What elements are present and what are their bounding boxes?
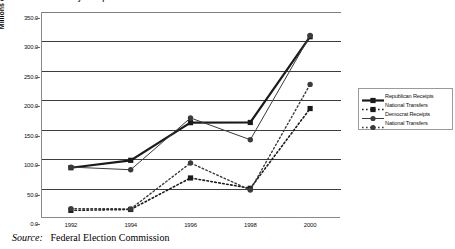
data-point <box>188 160 193 165</box>
legend-label: Democrat Receipts <box>385 111 430 117</box>
legend-label: National Transfers <box>385 120 428 126</box>
data-point <box>307 33 312 38</box>
series-line <box>71 84 310 208</box>
legend-item: Democrat Receipts <box>361 109 450 118</box>
data-point <box>248 137 253 142</box>
data-point <box>68 164 73 169</box>
legend-square-icon <box>361 91 385 100</box>
data-point <box>188 120 193 125</box>
y-tick-mark <box>36 165 40 166</box>
chart-legend: Republican ReceiptsNational TransfersDem… <box>358 88 453 130</box>
y-tick-mark <box>36 77 40 78</box>
y-axis: Millions of Dollars 0.050.0100.0150.0200… <box>0 12 38 218</box>
legend-label: Republican Receipts <box>385 93 433 99</box>
x-tick-label: 1992 <box>65 222 78 228</box>
x-tick-label: 1996 <box>184 222 197 228</box>
data-point <box>128 167 133 172</box>
y-tick-mark <box>36 195 40 196</box>
y-tick-mark <box>36 224 40 225</box>
series-democrat-receipts <box>68 33 313 173</box>
legend-circle-icon <box>361 118 385 127</box>
legend-label: National Transfers <box>385 102 428 108</box>
source-caption: Source: Federal Election Commission <box>12 232 169 243</box>
x-tick-label: 1994 <box>124 222 137 228</box>
data-point <box>128 158 133 163</box>
data-point <box>307 82 312 87</box>
legend-square-icon <box>361 100 385 109</box>
data-point <box>188 175 193 180</box>
series-line <box>71 36 310 170</box>
legend-item: Republican Receipts <box>361 91 450 100</box>
data-point <box>128 206 133 211</box>
data-point <box>248 187 253 192</box>
y-tick-mark <box>36 106 40 107</box>
data-point <box>68 206 73 211</box>
legend-circle-icon <box>361 109 385 118</box>
source-value: Federal Election Commission <box>51 232 170 243</box>
series-republican-receipts <box>68 34 312 170</box>
y-tick-mark <box>36 47 40 48</box>
x-tick-label: 1998 <box>244 222 257 228</box>
chart-title: Soft Money Receipts and Transfers <box>44 0 161 1</box>
y-tick-mark <box>36 18 40 19</box>
legend-item: National Transfers <box>361 100 450 109</box>
chart-figure: Soft Money Receipts and Transfers Millio… <box>0 0 455 249</box>
data-point <box>308 106 313 111</box>
data-point <box>248 120 253 125</box>
data-point <box>188 115 193 120</box>
y-tick-mark <box>36 136 40 137</box>
y-axis-title: Millions of Dollars <box>0 0 5 64</box>
x-tick-label: 2000 <box>304 222 317 228</box>
series-national-transfers <box>68 82 313 212</box>
legend-item: National Transfers <box>361 118 450 127</box>
source-label: Source: <box>12 232 43 243</box>
data-series-layer <box>41 12 340 218</box>
